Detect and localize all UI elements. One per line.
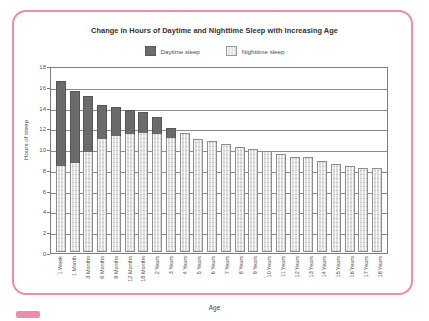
x-tick-slot: 9 Months: [109, 255, 122, 301]
bar-stack: [152, 117, 162, 252]
bar-column[interactable]: [316, 69, 329, 252]
bar-segment-nighttime: [358, 168, 368, 252]
x-tick-label: 15 Years: [335, 256, 341, 277]
y-tick-label: 18: [39, 64, 46, 70]
legend-swatch-nighttime: [226, 46, 237, 56]
bar-column[interactable]: [220, 69, 233, 252]
bar-segment-nighttime: [83, 152, 93, 252]
bar-column[interactable]: [192, 69, 205, 252]
bar-segment-nighttime: [235, 147, 245, 252]
x-tick-slot: 2 Years: [151, 255, 164, 301]
x-tick-slot: 1 Month: [68, 255, 81, 301]
bar-stack: [180, 133, 190, 252]
page-corner-marker: [16, 311, 40, 318]
x-tick-slot: 8 Years: [235, 255, 248, 301]
bar-stack: [303, 157, 313, 252]
bar-segment-nighttime: [56, 166, 66, 252]
y-tick-mark: [47, 129, 50, 130]
x-tick-label: 3 Years: [168, 256, 174, 274]
bar-column[interactable]: [357, 69, 370, 252]
x-tick-slot: 5 Years: [193, 255, 206, 301]
bar-stack: [235, 147, 245, 252]
bar-segment-daytime: [166, 128, 176, 137]
x-tick-label: 9 Months: [113, 256, 119, 279]
bar-stack: [138, 112, 148, 252]
legend-item-daytime: Daytime sleep: [145, 46, 200, 56]
bar-stack: [166, 128, 176, 252]
bar-column[interactable]: [247, 69, 260, 252]
x-tick-label: 3 Months: [85, 256, 91, 279]
bar-column[interactable]: [151, 69, 164, 252]
bar-column[interactable]: [55, 69, 68, 252]
bar-segment-daytime: [97, 105, 107, 139]
x-tick-label: 1 Month: [71, 256, 77, 276]
x-axis-tick-labels: 1 Week1 Month3 Months6 Months9 Months12 …: [51, 255, 389, 301]
legend-label-daytime: Daytime sleep: [161, 48, 200, 55]
x-tick-label: 2 Years: [154, 256, 160, 274]
bar-segment-nighttime: [180, 133, 190, 252]
x-tick-label: 1 Week: [57, 256, 63, 275]
bar-segment-nighttime: [248, 149, 258, 252]
bar-segment-nighttime: [111, 136, 121, 252]
bar-segment-nighttime: [372, 168, 382, 252]
x-tick-label: 11 Years: [280, 256, 286, 277]
bar-column[interactable]: [371, 69, 384, 252]
x-tick-slot: 3 Months: [81, 255, 94, 301]
x-tick-label: 18 Years: [377, 256, 383, 277]
bar-segment-daytime: [152, 117, 162, 134]
bar-column[interactable]: [233, 69, 246, 252]
legend-label-nighttime: Nighttime sleep: [242, 48, 285, 55]
bar-column[interactable]: [110, 69, 123, 252]
x-tick-label: 5 Years: [196, 256, 202, 274]
bar-segment-nighttime: [207, 141, 217, 252]
bar-column[interactable]: [68, 69, 81, 252]
x-tick-slot: 7 Years: [221, 255, 234, 301]
bar-segment-nighttime: [221, 144, 231, 252]
x-tick-label: 17 Years: [363, 256, 369, 277]
bar-column[interactable]: [178, 69, 191, 252]
bar-column[interactable]: [96, 69, 109, 252]
x-tick-slot: 13 Years: [304, 255, 317, 301]
bar-column[interactable]: [275, 69, 288, 252]
bar-segment-nighttime: [152, 134, 162, 252]
y-tick-mark: [47, 254, 50, 255]
x-tick-label: 9 Years: [252, 256, 258, 274]
y-tick-mark: [47, 67, 50, 68]
bar-column[interactable]: [123, 69, 136, 252]
bar-stack: [345, 166, 355, 252]
bar-stack: [317, 161, 327, 252]
bar-column[interactable]: [343, 69, 356, 252]
bar-segment-daytime: [70, 91, 80, 163]
bar-column[interactable]: [206, 69, 219, 252]
bar-stack: [290, 157, 300, 252]
bar-stack: [111, 107, 121, 252]
bar-stack: [193, 139, 203, 252]
legend-item-nighttime: Nighttime sleep: [226, 46, 285, 56]
x-tick-label: 12 Months: [127, 256, 133, 282]
bar-column[interactable]: [302, 69, 315, 252]
bar-column[interactable]: [261, 69, 274, 252]
plot-area: [50, 67, 388, 254]
x-tick-label: 7 Years: [224, 256, 230, 274]
x-tick-slot: 4 Years: [179, 255, 192, 301]
bar-segment-nighttime: [317, 161, 327, 252]
bar-column[interactable]: [137, 69, 150, 252]
x-tick-slot: 6 Years: [207, 255, 220, 301]
bar-stack: [97, 105, 107, 253]
y-tick-mark: [47, 109, 50, 110]
bar-stack: [248, 149, 258, 252]
x-tick-label: 13 Years: [308, 256, 314, 277]
bar-segment-nighttime: [166, 138, 176, 252]
bar-segment-nighttime: [290, 157, 300, 252]
bar-segment-nighttime: [138, 133, 148, 252]
x-tick-label: 4 Years: [182, 256, 188, 274]
bar-series-container: [52, 69, 386, 252]
x-tick-slot: 12 Years: [290, 255, 303, 301]
bar-column[interactable]: [330, 69, 343, 252]
bar-column[interactable]: [288, 69, 301, 252]
bar-column[interactable]: [82, 69, 95, 252]
bar-stack: [358, 168, 368, 252]
y-tick-mark: [47, 192, 50, 193]
bar-column[interactable]: [165, 69, 178, 252]
y-tick-mark: [47, 88, 50, 89]
